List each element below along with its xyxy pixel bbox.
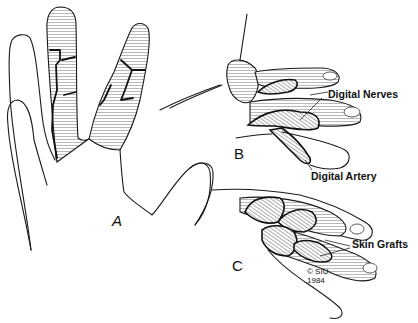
- panel-b-upper-fingernail: [323, 72, 337, 80]
- hand-a-thumb-crease: [160, 85, 220, 110]
- copyright-line-2: 1984: [307, 276, 328, 285]
- hand-a-ring-finger: [9, 35, 55, 250]
- panel-label-c: C: [232, 257, 243, 274]
- panel-b-lower-fingernail: [344, 107, 360, 117]
- illustration-canvas: Digital Nerves Digital Artery Skin Graft…: [0, 0, 418, 323]
- panel-b-retractor-wire: [240, 14, 247, 60]
- panel-b-palm-edge: [170, 85, 222, 108]
- label-skin-grafts: Skin Grafts: [352, 238, 408, 250]
- panel-c-upper-fingernail: [350, 224, 364, 234]
- copyright-line-1: © SIU: [307, 267, 328, 276]
- panel-c-drawing: [212, 189, 377, 318]
- label-digital-artery: Digital Artery: [311, 170, 377, 182]
- panel-b-drawing: [170, 14, 361, 225]
- panel-label-a: A: [112, 212, 122, 229]
- hand-a-palm: [120, 150, 213, 225]
- panel-b-retracted-flap: [227, 60, 259, 103]
- hand-a-index-finger: [89, 24, 149, 151]
- hand-a-little-finger: [7, 100, 47, 250]
- panel-label-b: B: [234, 145, 244, 162]
- panel-c-graft-3: [262, 226, 297, 256]
- label-digital-nerves: Digital Nerves: [328, 88, 398, 100]
- copyright-notice: © SIU 1984: [307, 267, 328, 285]
- panel-c-lower-fingernail: [363, 263, 377, 273]
- hand-surgery-illustration: [0, 0, 418, 323]
